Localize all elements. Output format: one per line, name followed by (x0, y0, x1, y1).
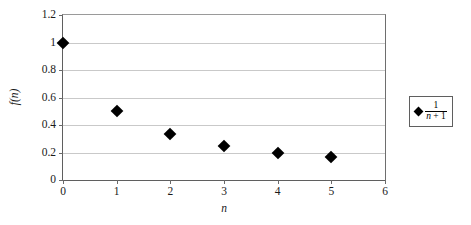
data-point-marker (218, 139, 231, 152)
y-tick-label: 1.2 (42, 9, 56, 21)
x-tick-label: 0 (60, 186, 66, 198)
legend-entry-formula: 1 n + 1 (425, 101, 447, 122)
x-tick-label: 6 (382, 186, 388, 198)
y-gridline (63, 153, 385, 154)
y-tick-label: 0.2 (42, 147, 56, 159)
data-point-marker (57, 36, 70, 49)
x-tick-mark (63, 180, 64, 184)
y-tick-mark (59, 70, 63, 71)
chart-figure: 00.20.40.60.811.20123456 f(n) n 1 n + 1 (0, 0, 471, 225)
data-point-marker (110, 105, 123, 118)
chart-legend: 1 n + 1 (409, 96, 453, 127)
y-tick-mark (59, 15, 63, 16)
y-tick-mark (59, 125, 63, 126)
data-point-marker (271, 146, 284, 159)
data-point-marker (164, 128, 177, 141)
legend-formula-denominator-constant: 1 (441, 111, 446, 121)
y-gridline (63, 43, 385, 44)
y-tick-label: 0 (50, 174, 56, 186)
x-tick-mark (117, 180, 118, 184)
legend-formula-numerator: 1 (432, 101, 441, 111)
x-tick-mark (278, 180, 279, 184)
x-tick-label: 1 (114, 186, 120, 198)
legend-formula-denominator: n + 1 (425, 112, 447, 122)
y-tick-mark (59, 98, 63, 99)
x-tick-label: 5 (328, 186, 334, 198)
x-tick-mark (170, 180, 171, 184)
x-tick-mark (224, 180, 225, 184)
y-tick-label: 0.8 (42, 64, 56, 76)
y-tick-label: 1 (50, 37, 56, 49)
y-gridline (63, 70, 385, 71)
y-tick-label: 0.6 (42, 92, 56, 104)
y-tick-mark (59, 153, 63, 154)
x-tick-label: 4 (275, 186, 281, 198)
x-tick-label: 3 (221, 186, 227, 198)
x-tick-label: 2 (167, 186, 173, 198)
y-axis-title: f(n) (8, 89, 20, 106)
y-gridline (63, 98, 385, 99)
x-tick-mark (385, 180, 386, 184)
y-tick-label: 0.4 (42, 119, 56, 131)
y-gridline (63, 125, 385, 126)
plot-area: 00.20.40.60.811.20123456 (62, 14, 386, 181)
x-tick-mark (331, 180, 332, 184)
legend-marker-diamond-icon (414, 107, 424, 117)
legend-formula-denominator-operator: + (431, 111, 441, 121)
x-axis-title: n (221, 202, 227, 214)
